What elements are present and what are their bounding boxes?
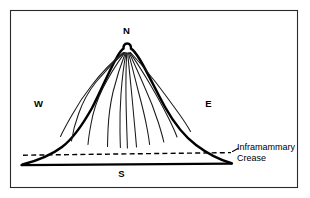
- crease-label-line-2: Crease: [237, 153, 266, 163]
- duct-line: [120, 53, 126, 148]
- crease-label-line-1: Inframammary: [237, 142, 296, 152]
- duct-line: [130, 53, 177, 137]
- breast-quadrant-figure: N S E W Inframammary Crease: [0, 0, 310, 198]
- compass-label-east: E: [205, 98, 211, 109]
- compass-label-west: W: [34, 98, 43, 109]
- compass-label-north: N: [123, 25, 130, 36]
- duct-lines-group: [61, 53, 191, 149]
- diagram-canvas: N S E W Inframammary Crease: [0, 0, 310, 198]
- compass-label-south: S: [118, 168, 124, 179]
- chest-wall-baseline: [22, 164, 233, 166]
- duct-line: [88, 53, 125, 145]
- duct-line: [131, 53, 191, 132]
- duct-line: [126, 53, 127, 148]
